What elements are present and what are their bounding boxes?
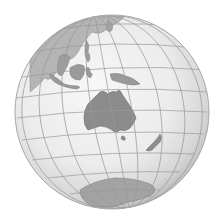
globe-map [0, 0, 219, 220]
globe-svg [0, 0, 219, 220]
tasmania [121, 136, 125, 140]
